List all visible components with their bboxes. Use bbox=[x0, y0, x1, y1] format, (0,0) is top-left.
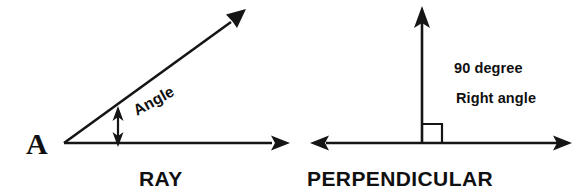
ray-horizontal-arrowhead-icon bbox=[271, 136, 290, 151]
angle-label: Angle bbox=[130, 82, 177, 118]
right-angle-note-line-2: Right angle bbox=[456, 90, 536, 106]
right-angle-square-marker-icon bbox=[422, 124, 442, 143]
ray-slanted-arrowhead-icon bbox=[226, 9, 246, 28]
ray-slanted-line bbox=[64, 22, 231, 143]
ray-vertex-label: A bbox=[26, 127, 48, 160]
ray-caption: RAY bbox=[139, 167, 183, 190]
perpendicular-diagram-group: 90 degree Right angle PERPENDICULAR bbox=[307, 6, 572, 190]
geometry-diagram-canvas: A Angle RAY 90 degree Right angle P bbox=[0, 0, 584, 196]
right-angle-note-line-1: 90 degree bbox=[454, 60, 523, 76]
ray-diagram-group: A Angle RAY bbox=[26, 9, 290, 190]
geometry-figure: A Angle RAY 90 degree Right angle P bbox=[0, 0, 584, 196]
perpendicular-caption: PERPENDICULAR bbox=[307, 167, 493, 190]
